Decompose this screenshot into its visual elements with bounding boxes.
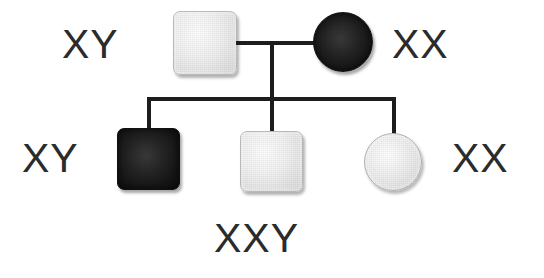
mother-genotype-label: XX bbox=[392, 24, 449, 65]
individual-father-square bbox=[173, 11, 237, 75]
child-middle-genotype-label: XXY bbox=[214, 218, 299, 259]
father-genotype-label: XY bbox=[62, 24, 119, 65]
individual-child-3-circle bbox=[364, 133, 422, 191]
drop-line-child-2 bbox=[270, 97, 274, 133]
daughter-genotype-label: XX bbox=[452, 138, 509, 179]
individual-child-2-square bbox=[240, 131, 303, 192]
mating-line bbox=[236, 41, 315, 45]
individual-mother-circle bbox=[313, 12, 373, 72]
descent-line bbox=[270, 41, 274, 101]
pedigree-diagram: XY XX XY XX XXY bbox=[0, 0, 544, 278]
drop-line-child-3 bbox=[392, 97, 396, 135]
individual-child-1-square bbox=[117, 128, 180, 190]
drop-line-child-1 bbox=[147, 97, 151, 130]
son-affected-genotype-label: XY bbox=[22, 138, 79, 179]
